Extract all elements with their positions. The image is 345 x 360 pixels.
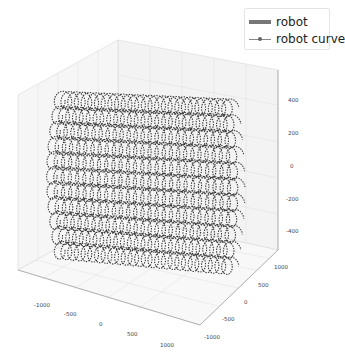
svg-text:0: 0: [99, 321, 103, 327]
thick-line-icon: [249, 15, 271, 29]
svg-text:500: 500: [127, 331, 138, 337]
svg-text:1000: 1000: [274, 264, 288, 270]
svg-text:1000: 1000: [160, 342, 174, 348]
svg-text:0: 0: [290, 163, 294, 169]
svg-text:200: 200: [288, 130, 299, 136]
svg-text:500: 500: [258, 282, 269, 288]
svg-text:-400: -400: [286, 228, 299, 234]
legend: robot robot curve: [244, 8, 330, 50]
z-tick-labels: 400 200 0 -200 -400: [286, 97, 299, 234]
marker-line-icon: [249, 32, 271, 46]
svg-text:-200: -200: [286, 196, 299, 202]
legend-item-robot: robot: [249, 15, 308, 29]
svg-text:-1000: -1000: [34, 302, 50, 308]
legend-item-robot-curve: robot curve: [249, 32, 345, 46]
axis-panes: [18, 40, 278, 325]
svg-text:-1000: -1000: [204, 334, 220, 340]
svg-text:400: 400: [288, 97, 299, 103]
svg-text:-500: -500: [64, 311, 77, 317]
svg-text:-500: -500: [222, 316, 235, 322]
svg-text:0: 0: [244, 299, 248, 305]
